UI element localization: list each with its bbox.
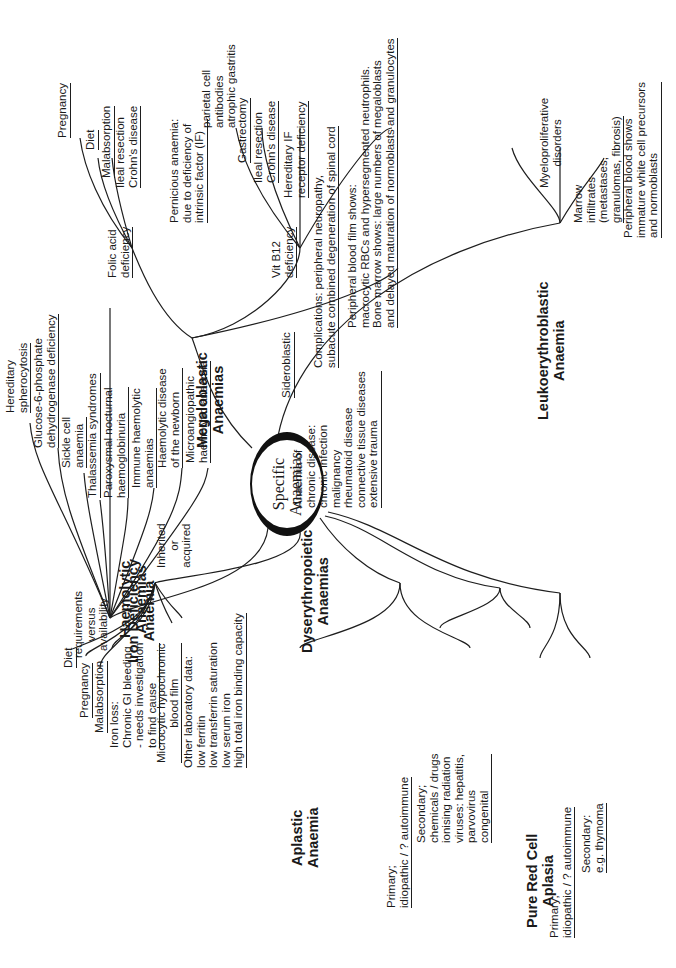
branch-title-dyserythropoietic: Dyserythropoietic Anaemias — [300, 530, 331, 653]
vit-b12-item: Ileal resection Crohn's disease — [252, 101, 279, 183]
vit-b12-item: Gastrectomy — [236, 98, 251, 163]
iron-item: Pregnancy — [78, 663, 93, 718]
dysery-item: Anaemia of chronic disease: chronic infe… — [292, 371, 382, 508]
haemolytic-item: Hereditary spherocytosis — [4, 343, 31, 413]
pernicious-note: parietal cell antibodies atrophic gastri… — [200, 44, 238, 128]
vit-b12-item: Hereditary IF receptor deficiency — [282, 101, 309, 198]
aplastic-item: Secondary; chemicals / drugs ionising ra… — [415, 754, 492, 843]
vit-b12-complications: Complications: peripheral neuropathy, su… — [312, 126, 339, 368]
folic-acid-item: Pregnancy — [56, 83, 71, 138]
link-aplastic — [325, 516, 500, 588]
branch-title-leukoerythroblastic: Leukoerythroblastic Anaemia — [536, 281, 567, 420]
iron-note: requirements versus availability — [72, 591, 110, 658]
center-title-line1: Specific — [270, 458, 287, 510]
folic-acid-label: Folic acid deficiency — [106, 227, 133, 278]
iron-item: Other laboratory data: low ferritin low … — [182, 613, 247, 768]
branch-title-megaloblastic: Megaloblastic Anaemias — [195, 352, 226, 448]
folic-acid-item: Diet — [84, 130, 99, 150]
link-pure-red-cell — [328, 512, 560, 593]
megaloblastic-blood-film: Peripheral blood film shows: macrocytic … — [346, 38, 398, 328]
leuko-item: Peripheral blood shows immature white ce… — [622, 82, 662, 238]
link-dyserythropoietic — [320, 518, 400, 583]
haemolytic-item: Thalassemia syndromes — [86, 373, 101, 498]
aplastic-item: Primary; idiopathic / ? autoimmune — [385, 777, 412, 908]
mind-map-canvas: SpecificAnaemias Haemolytic Anaemias Inh… — [0, 0, 676, 968]
leuko-item: Marrow infiltrates (metastases, granulom… — [572, 116, 624, 223]
iron-item: Iron loss: Chronic GI bleeding - needs i… — [108, 643, 160, 748]
haemolytic-item: Immune haemolytic anaemias — [130, 388, 157, 488]
iron-item: Microcytic hypochromic blood film — [155, 644, 182, 764]
leuko-item: Myeloproliferative disorders — [538, 98, 563, 188]
iron-item: Diet — [62, 648, 77, 668]
haemolytic-item: Glucose-6-phosphate dehydrogenase defici… — [32, 314, 59, 448]
vit-b12-label: Vit B12 deficiency — [270, 227, 297, 278]
folic-acid-item: Malabsorption — [100, 106, 115, 178]
pure-red-cell-item: Secondary: e.g. thymoma — [580, 803, 607, 873]
folic-acid-item: Ileal resection Crohn's disease — [114, 106, 141, 188]
haemolytic-item: Paroxysmal nocturnal haemoglobinuria — [102, 387, 129, 498]
haemolytic-note: Inherited or acquired — [155, 523, 193, 568]
iron-item: Malabsorption — [93, 661, 108, 733]
pure-red-cell-item: Primary; idiopathic / ? autoimmune — [548, 807, 575, 938]
pernicious-anaemia: Pernicious anaemia: due to deficiency of… — [168, 119, 208, 223]
branch-title-aplastic: Aplastic Anaemia — [290, 808, 321, 868]
haemolytic-item: Sickle cell anaemia — [60, 417, 87, 468]
haemolytic-item: Haemolytic disease of the newborn — [156, 368, 183, 468]
